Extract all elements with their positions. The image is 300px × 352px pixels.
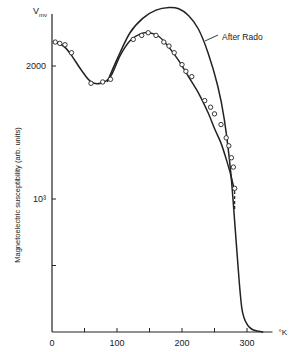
x-tick-label: 0 xyxy=(49,338,54,348)
data-point xyxy=(63,43,67,47)
x-tick-label: 200 xyxy=(174,338,189,348)
data-point xyxy=(167,44,171,48)
y-unit-label: Vmv xyxy=(33,6,47,18)
y-axis-label: Magnetoelectric susceptibility (arb. uni… xyxy=(13,127,22,263)
data-point xyxy=(208,105,212,109)
series-line xyxy=(107,7,263,332)
series-line xyxy=(53,33,234,189)
data-point xyxy=(229,156,233,160)
data-point xyxy=(172,51,176,55)
y-tick-label: 2000 xyxy=(26,61,46,71)
data-point xyxy=(224,136,228,140)
data-point xyxy=(227,144,231,148)
annotation-after-rado: After Rado xyxy=(222,32,263,42)
y-tick-label: 10³ xyxy=(33,194,46,204)
annotation-leader xyxy=(205,35,218,41)
data-point xyxy=(53,40,57,44)
data-point xyxy=(190,74,194,78)
data-point xyxy=(89,81,93,85)
x-tick-label: 100 xyxy=(109,338,124,348)
data-point xyxy=(180,62,184,66)
data-point xyxy=(231,165,235,169)
data-point xyxy=(219,122,223,126)
data-point xyxy=(154,33,158,37)
data-point xyxy=(140,33,144,37)
x-tick-label: 300 xyxy=(239,338,254,348)
data-point xyxy=(108,77,112,81)
labels: 010020030010³2000°KVmvMagnetoelectric su… xyxy=(13,6,288,348)
data-point xyxy=(101,80,105,84)
data-point xyxy=(203,98,207,102)
data-point xyxy=(162,40,166,44)
data-point xyxy=(184,69,188,73)
data-point xyxy=(232,186,236,190)
chart: 010020030010³2000°KVmvMagnetoelectric su… xyxy=(0,0,300,352)
data-point xyxy=(146,31,150,35)
x-axis-label: °K xyxy=(279,328,288,337)
data-point xyxy=(212,112,216,116)
data-point xyxy=(131,37,135,41)
series-group xyxy=(53,7,263,332)
data-point xyxy=(58,41,62,45)
data-point xyxy=(69,51,73,55)
